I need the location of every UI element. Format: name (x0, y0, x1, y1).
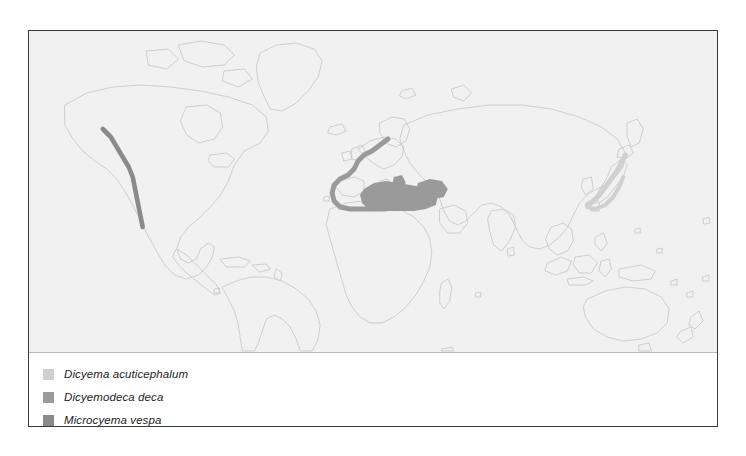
distribution-map-figure: Dicyema acuticephalum Dicyemodeca deca M… (28, 30, 718, 427)
new-zealand-south-outline (677, 327, 693, 343)
novaya-zemlya-outline (452, 85, 472, 101)
legend-item-microcyema-vespa: Microcyema vespa (43, 411, 717, 429)
south-america-outline (222, 277, 320, 351)
legend-label-microcyema-vespa: Microcyema vespa (64, 414, 161, 426)
greenland-outline (256, 43, 322, 111)
legend-item-dicyema-acuticephalum: Dicyema acuticephalum (43, 365, 717, 383)
pacific-island-3 (703, 275, 709, 281)
sulawesi-outline (599, 259, 611, 277)
species-range-overlays (103, 129, 625, 227)
tasmania-outline (639, 343, 651, 351)
java-outline (567, 277, 593, 285)
ireland-outline (342, 151, 352, 161)
hispaniola-outline (252, 264, 270, 272)
madagascar-outline (440, 279, 452, 309)
legend-swatch-dicyema-acuticephalum (43, 369, 54, 380)
pacific-island-4 (657, 248, 662, 253)
australia-outline (583, 287, 669, 341)
arctic-island-2 (147, 49, 179, 69)
arctic-islands-outline (179, 41, 235, 67)
sri-lanka-outline (508, 247, 515, 256)
new-zealand-outline (689, 311, 703, 329)
hudson-bay-outline (181, 105, 223, 143)
legend-label-dicyemodeca-deca: Dicyemodeca deca (64, 391, 163, 403)
cuba-extra-outline (442, 347, 454, 351)
pacific-island-2 (687, 291, 693, 297)
legend-swatch-microcyema-vespa (43, 415, 54, 426)
iceland-outline (328, 124, 346, 135)
legend-swatch-dicyemodeca-deca (43, 392, 54, 403)
arabia-outline (440, 205, 468, 233)
great-lakes-outline (208, 153, 234, 167)
indian-ocean-island (476, 292, 481, 297)
svalbard-outline (400, 88, 416, 99)
arctic-island-3 (222, 69, 252, 87)
philippines-outline (595, 233, 607, 251)
new-guinea-outline (619, 265, 655, 281)
sumatra-outline (545, 257, 571, 275)
kamchatka-outline (627, 119, 643, 147)
pacific-island-5 (635, 228, 640, 233)
legend-item-dicyemodeca-deca: Dicyemodeca deca (43, 388, 717, 406)
india-outline (488, 209, 516, 251)
north-america-outline (65, 85, 268, 279)
borneo-outline (573, 255, 597, 273)
africa-outline (326, 201, 432, 323)
legend-label-dicyema-acuticephalum: Dicyema acuticephalum (64, 368, 188, 380)
caribbean-islands-outline (220, 257, 250, 267)
pacific-island-1 (671, 279, 677, 285)
hawaii-outline (703, 217, 710, 224)
atlantic-island-1 (324, 196, 329, 201)
map-panel (29, 31, 717, 352)
map-legend: Dicyema acuticephalum Dicyemodeca deca M… (29, 353, 717, 426)
southeast-asia-outline (545, 223, 573, 255)
world-map (29, 31, 717, 352)
